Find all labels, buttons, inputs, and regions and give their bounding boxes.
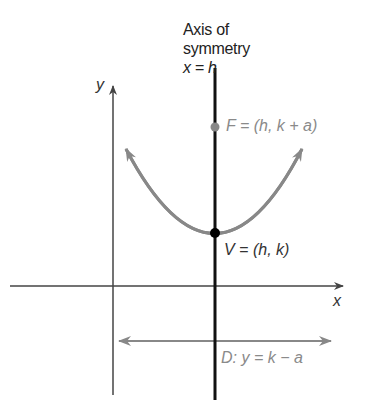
directrix-label: D: y = k − a [221,349,303,367]
vertex-point [210,228,220,238]
title-line-1: Axis of [183,20,250,39]
x-axis-label: x [333,292,341,310]
axis-of-symmetry-title: Axis of symmetry x = h [183,20,250,77]
title-line-2: symmetry [183,39,250,58]
y-axis-label: y [96,76,104,94]
focus-label: F = (h, k + a) [226,117,317,135]
focus-point [211,123,220,132]
axis-equation: x = h [183,58,250,77]
vertex-label: V = (h, k) [224,241,289,259]
